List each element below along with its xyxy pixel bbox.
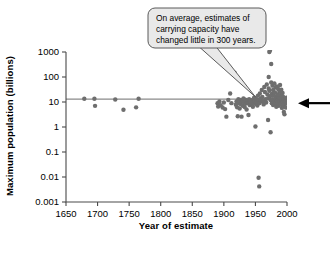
data-point <box>278 83 282 87</box>
data-point <box>280 91 284 95</box>
data-point <box>268 130 272 134</box>
data-point <box>265 82 269 86</box>
x-axis-title: Year of estimate <box>139 220 213 231</box>
data-point <box>256 176 260 180</box>
data-point <box>92 97 96 101</box>
data-point <box>82 97 86 101</box>
callout-text-line: carrying capacity have <box>156 24 240 34</box>
data-point <box>282 112 286 116</box>
scatter-plot: 16501700175018001850190019502000 0.0010.… <box>0 0 334 256</box>
x-tick-label: 1900 <box>213 208 234 219</box>
y-tick-label: 1 <box>54 121 59 132</box>
data-point <box>224 114 228 118</box>
data-point <box>229 101 233 105</box>
data-point <box>264 100 268 104</box>
y-tick-label: 100 <box>43 71 59 82</box>
x-tick-label: 1950 <box>245 208 266 219</box>
data-point <box>269 62 273 66</box>
callout-text-line: On average, estimates of <box>156 13 250 23</box>
y-tick-label: 0.1 <box>46 146 59 157</box>
data-point <box>217 99 221 103</box>
y-tick-label: 0.01 <box>41 171 60 182</box>
y-tick-label: 0.001 <box>35 196 59 207</box>
data-point <box>266 118 270 122</box>
data-point <box>223 107 227 111</box>
data-point <box>228 91 232 95</box>
x-tick-label: 1700 <box>87 208 108 219</box>
figure-container: 16501700175018001850190019502000 0.0010.… <box>0 0 334 256</box>
data-point <box>253 124 257 128</box>
data-point <box>236 114 240 118</box>
data-point <box>246 113 250 117</box>
data-point <box>134 105 138 109</box>
data-point <box>113 97 117 101</box>
data-point <box>121 108 125 112</box>
data-point <box>136 97 140 101</box>
data-point <box>266 75 270 79</box>
x-tick-label: 2000 <box>276 208 297 219</box>
y-axis-title: Maximum population (billions) <box>4 56 15 196</box>
data-point <box>226 98 230 102</box>
data-point <box>222 100 226 104</box>
x-tick-label: 1650 <box>55 208 76 219</box>
data-point <box>257 184 261 188</box>
x-tick-label: 1800 <box>150 208 171 219</box>
y-tick-label: 10 <box>48 96 59 107</box>
x-tick-label: 1750 <box>119 208 140 219</box>
data-point <box>244 107 248 111</box>
x-tick-label: 1850 <box>182 208 203 219</box>
callout-text-line: changed little in 300 years. <box>156 35 256 45</box>
data-point <box>239 114 243 118</box>
y-tick-label: 1000 <box>38 46 59 57</box>
data-point <box>93 104 97 108</box>
